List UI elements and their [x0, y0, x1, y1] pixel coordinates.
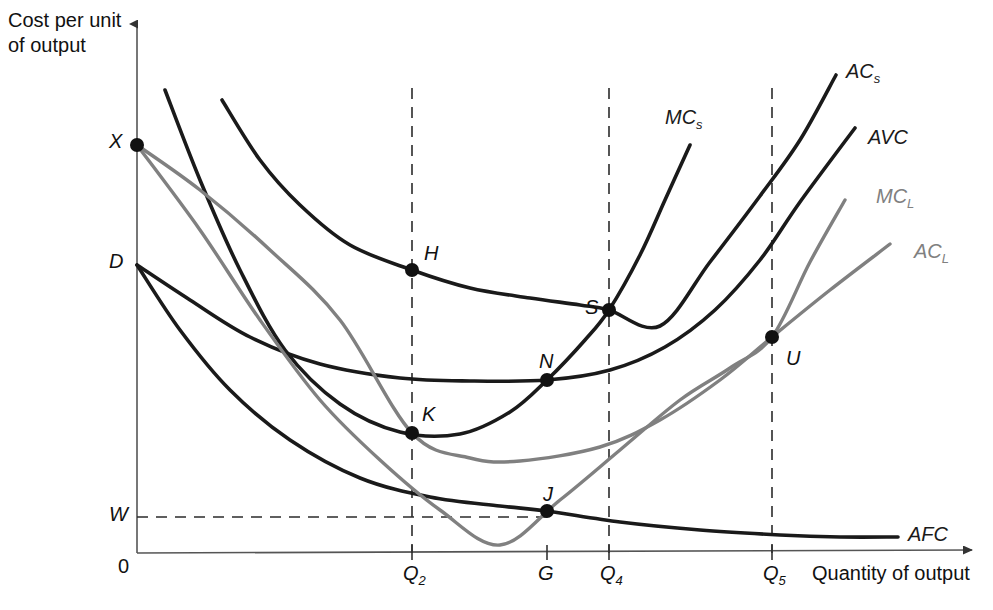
x-tick-label-Q2: Q2: [403, 562, 426, 588]
curve-label-ACs: ACs: [846, 60, 880, 86]
curve-label-text: AC: [846, 60, 874, 82]
curve-label-MCs: MCs: [665, 106, 703, 132]
curve-label-AVC: AVC: [868, 126, 908, 149]
x-tick-subscript: 4: [616, 573, 623, 588]
curve-label-MCL: MCL: [876, 185, 914, 211]
x-tick-text: Q: [403, 562, 419, 584]
curve-label-text: AFC: [908, 523, 948, 545]
cost-curve-figure: Cost per unit of output Quantity of outp…: [0, 0, 993, 610]
point-dot-J: [540, 504, 554, 518]
point-dot-N: [540, 373, 554, 387]
curve-label-subscript: L: [907, 196, 914, 211]
point-dot-U: [765, 330, 779, 344]
chart-canvas: [0, 0, 993, 610]
curve-label-text: AVC: [868, 126, 908, 148]
x-tick-subscript: 5: [779, 573, 786, 588]
curve-label-subscript: s: [696, 117, 703, 132]
point-label-N: N: [539, 350, 553, 373]
point-label-S: S: [585, 296, 598, 319]
point-dot-K: [405, 426, 419, 440]
dashed-guides: [137, 88, 772, 553]
point-label-J: J: [543, 483, 553, 506]
point-dot-H: [405, 263, 419, 277]
y-mark-W: W: [109, 503, 128, 526]
point-label-K: K: [422, 403, 435, 426]
curve-avc: [137, 128, 855, 381]
axes: [137, 24, 972, 553]
y-mark-X: X: [109, 130, 122, 153]
x-tick-text: Q: [600, 562, 616, 584]
curve-label-subscript: L: [942, 251, 949, 266]
y-mark-D: D: [109, 250, 123, 273]
curve-label-ACL: ACL: [914, 240, 949, 266]
curve-label-text: AC: [914, 240, 942, 262]
curve-group: [137, 75, 898, 545]
curve-label-AFC: AFC: [908, 523, 948, 546]
x-tick-label-Q5: Q5: [763, 562, 786, 588]
x-tick-label-Q4: Q4: [600, 562, 623, 588]
y-axis-title: Cost per unit of output: [8, 8, 121, 58]
curve-label-text: MC: [876, 185, 907, 207]
curve-mc-l: [137, 145, 845, 545]
point-dot-S: [602, 303, 616, 317]
point-label-U: U: [786, 347, 800, 370]
x-tick-text: Q: [763, 562, 779, 584]
x-axis: [137, 550, 972, 553]
x-tick-subscript: 2: [419, 573, 426, 588]
curve-label-text: MC: [665, 106, 696, 128]
point-label-H: H: [424, 242, 438, 265]
x-tick-text: G: [538, 562, 554, 584]
point-marker-group: [130, 138, 779, 518]
curve-label-subscript: s: [874, 71, 881, 86]
x-tick-label-G: G: [538, 562, 554, 585]
x-axis-title: Quantity of output: [812, 561, 970, 586]
point-dot-X: [130, 138, 144, 152]
origin-label: 0: [118, 555, 129, 578]
